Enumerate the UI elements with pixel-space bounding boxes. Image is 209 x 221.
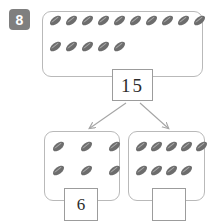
whole-group-row-2 xyxy=(49,43,129,50)
worksheet-canvas: 8 15 6 xyxy=(0,0,209,221)
left-part-answer-box[interactable]: 6 xyxy=(64,188,98,221)
right-part-row-1 xyxy=(135,143,209,150)
problem-number-badge: 8 xyxy=(9,9,30,30)
whole-group-row-1 xyxy=(49,17,209,24)
total-value-box[interactable]: 15 xyxy=(112,69,153,101)
arrow-to-left-part xyxy=(90,103,126,128)
arrow-to-right-part xyxy=(140,103,168,128)
left-part-row-2 xyxy=(52,167,136,174)
right-part-row-2 xyxy=(135,167,195,174)
right-part-answer-box[interactable] xyxy=(152,188,186,221)
left-part-row-1 xyxy=(52,143,136,150)
